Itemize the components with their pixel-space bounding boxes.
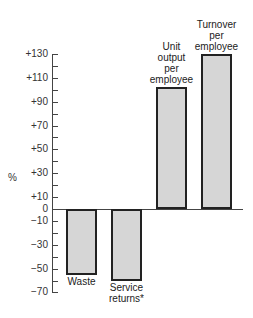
y-tick-label: +110 [8,73,48,83]
y-tick-label: −30 [8,240,48,250]
y-tick-label: −70 [8,287,48,297]
bar [66,209,97,275]
bar-category-label: Turnoverperemployee [182,19,252,52]
bar-chart: % +130+110+90+70+50+30+100−10−30−50−70 W… [0,0,253,318]
bar [201,54,232,209]
y-tick-label: −10 [8,216,48,226]
y-tick-label: +30 [8,168,48,178]
bar-category-label: Servicereturns* [92,282,162,304]
y-tick-label: +90 [8,97,48,107]
y-tick-label: +10 [8,192,48,202]
bar [111,209,142,281]
y-tick-label: +50 [8,144,48,154]
y-tick-label: 0 [8,204,48,214]
y-tick-label: +70 [8,121,48,131]
y-tick-label: −50 [8,264,48,274]
y-axis-line [52,54,53,293]
bar [156,87,187,209]
y-tick-label: +130 [8,49,48,59]
